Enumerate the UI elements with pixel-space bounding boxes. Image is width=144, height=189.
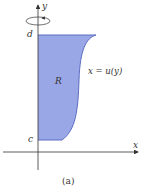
figure-canvas: y x d c R x = u(y) (a) — [0, 0, 144, 189]
y-axis-label: y — [41, 1, 48, 11]
region-label: R — [54, 76, 62, 86]
region-r — [38, 35, 96, 140]
x-axis-label: x — [133, 140, 138, 150]
figure-caption: (a) — [62, 176, 74, 186]
tick-label-d: d — [27, 29, 33, 39]
tick-label-c: c — [28, 134, 33, 144]
curve-label: x = u(y) — [88, 66, 122, 76]
